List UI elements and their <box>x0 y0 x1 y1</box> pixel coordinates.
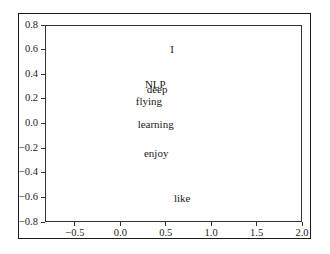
ytick-label: −0.2 <box>8 143 38 154</box>
ytick-label: −0.8 <box>8 217 38 228</box>
word-label-i: I <box>170 44 174 55</box>
xtick-mark <box>256 222 257 226</box>
xtick-label: 1.5 <box>242 228 272 239</box>
ytick-mark <box>41 98 45 99</box>
word-label-learning: learning <box>138 119 174 130</box>
xtick-mark <box>74 222 75 226</box>
xtick-mark <box>302 222 303 226</box>
ytick-mark <box>41 25 45 26</box>
ytick-label: 0.6 <box>8 44 38 55</box>
ytick-mark <box>41 148 45 149</box>
word-label-enjoy: enjoy <box>144 148 168 159</box>
ytick-mark <box>41 74 45 75</box>
ytick-label: −0.4 <box>8 167 38 178</box>
ytick-mark <box>41 49 45 50</box>
ytick-label: 0.8 <box>8 20 38 31</box>
word-label-flying: flying <box>136 96 162 107</box>
xtick-label: 2.0 <box>287 228 317 239</box>
xtick-label: 0.0 <box>105 228 135 239</box>
xtick-mark <box>120 222 121 226</box>
ytick-label: 0.4 <box>8 69 38 80</box>
xtick-label: −0.5 <box>60 228 90 239</box>
ytick-label: −0.6 <box>8 192 38 203</box>
xtick-label: 1.0 <box>196 228 226 239</box>
ytick-mark <box>41 123 45 124</box>
word-label-deep: deep <box>147 84 168 95</box>
ytick-label: 0.2 <box>8 93 38 104</box>
ytick-mark <box>41 172 45 173</box>
ytick-mark <box>41 197 45 198</box>
ytick-label: 0.0 <box>8 118 38 129</box>
word-label-like: like <box>174 193 191 204</box>
ytick-mark <box>41 222 45 223</box>
xtick-mark <box>165 222 166 226</box>
xtick-mark <box>211 222 212 226</box>
xtick-label: 0.5 <box>151 228 181 239</box>
